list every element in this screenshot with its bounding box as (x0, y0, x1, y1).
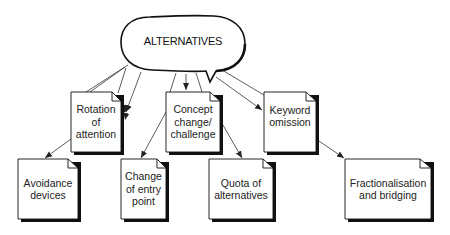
node-quota-of-alternatives: Quota of alternatives (209, 163, 273, 215)
node-line: alternatives (214, 189, 268, 202)
node-fractionalisation-and-bridging: Fractionalisation and bridging (345, 163, 431, 215)
node-line: point (125, 195, 162, 208)
node-line: and bridging (350, 189, 426, 202)
node-line: Quota of (214, 177, 268, 190)
node-line: Rotation (76, 103, 116, 116)
alternatives-bubble (121, 16, 245, 82)
node-change-of-entry-point: Change of entry point (121, 163, 166, 215)
node-line: Fractionalisation (350, 177, 426, 190)
node-line: change/ (171, 116, 216, 129)
node-line: Concept (171, 103, 216, 116)
node-line: Keyword (269, 104, 310, 117)
node-rotation-of-attention: Rotation of attention (71, 96, 121, 148)
node-line: devices (24, 189, 73, 202)
node-concept-change: Concept change/ challenge (166, 96, 220, 148)
node-line: omission (269, 116, 310, 129)
node-avoidance-devices: Avoidance devices (18, 163, 78, 215)
root-label: ALTERNATIVES (120, 35, 246, 47)
node-line: attention (76, 128, 116, 141)
node-line: Avoidance (24, 177, 73, 190)
node-line: challenge (171, 128, 216, 141)
node-line: Change (125, 170, 162, 183)
node-line: of entry (125, 183, 162, 196)
node-keyword-omission: Keyword omission (264, 94, 316, 138)
node-line: of (76, 116, 116, 129)
